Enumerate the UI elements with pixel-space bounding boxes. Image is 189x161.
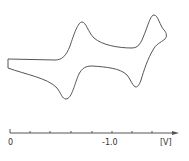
x-tick-label-0: 0 bbox=[8, 139, 13, 147]
x-tick-label-minus-1: -1.0 bbox=[102, 139, 118, 147]
x-axis-unit-label: [V] bbox=[160, 139, 172, 147]
x-axis bbox=[10, 129, 174, 133]
x-axis-arrow-icon bbox=[172, 131, 179, 135]
voltammogram-plot bbox=[0, 0, 189, 161]
cv-curve bbox=[8, 15, 166, 99]
